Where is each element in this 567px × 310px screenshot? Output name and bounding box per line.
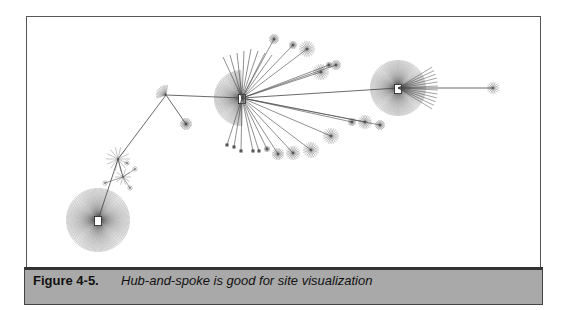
hub-and-spoke-graph: [27, 17, 542, 268]
figure-label: Figure 4-5.: [33, 273, 99, 288]
figure-title: Hub-and-spoke is good for site visualiza…: [121, 273, 372, 288]
figure-frame: [26, 16, 541, 267]
figure-caption: Figure 4-5. Hub-and-spoke is good for si…: [24, 267, 543, 305]
